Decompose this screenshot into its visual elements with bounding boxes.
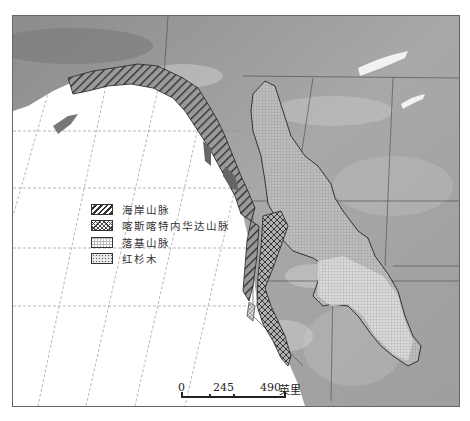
grid-swatch-icon [91,237,113,248]
scale-tick [233,394,235,398]
legend-label: 落基山脉 [122,235,170,250]
map-frame [12,15,460,407]
legend-item-coast-mountains: 海岸山脉 [91,201,230,218]
scale-tick-label: 245 [213,381,234,394]
legend-label: 海岸山脉 [122,202,170,217]
map-legend: 海岸山脉 喀斯喀特内华达山脉 落基山脉 红杉木 [91,201,230,267]
legend-label: 喀斯喀特内华达山脉 [122,218,230,233]
cross-hatch-swatch-icon [91,220,113,231]
scale-tick [209,394,211,398]
scale-unit-label: 英里 [279,381,301,397]
stipple-swatch-icon [91,253,113,264]
scale-bar: 0 245 490 英里 [178,381,318,406]
scale-tick [284,392,286,398]
legend-item-rocky-mountains: 落基山脉 [91,234,230,251]
legend-label: 红杉木 [122,251,158,266]
map-canvas [13,16,459,406]
legend-item-redwood: 红杉木 [91,251,230,268]
legend-item-cascade-sierra: 喀斯喀特内华达山脉 [91,218,230,235]
scale-tick-label: 490 [260,381,281,394]
scale-tick [181,392,183,398]
diagonal-hatch-swatch-icon [91,204,113,215]
